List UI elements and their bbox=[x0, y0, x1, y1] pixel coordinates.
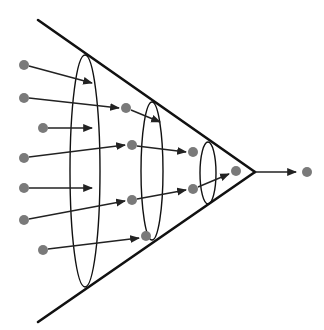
stage-1-dot-3 bbox=[127, 195, 137, 205]
stage-1-dot-4 bbox=[141, 231, 151, 241]
arrow-8 bbox=[131, 110, 160, 122]
funnel-diagram bbox=[0, 0, 324, 330]
arrow-9 bbox=[137, 146, 186, 152]
stage-1-dot-2 bbox=[127, 140, 137, 150]
input-dot-6 bbox=[19, 215, 29, 225]
output-dot bbox=[302, 167, 312, 177]
input-dot-7 bbox=[38, 245, 48, 255]
input-dot-1 bbox=[19, 60, 29, 70]
stage-ellipses bbox=[70, 55, 216, 287]
stage-2-dot-2 bbox=[188, 184, 198, 194]
arrow-7 bbox=[48, 238, 139, 249]
arrow-6 bbox=[29, 201, 125, 219]
input-dot-5 bbox=[19, 183, 29, 193]
input-dot-2 bbox=[19, 93, 29, 103]
stage-1-dot-1 bbox=[121, 103, 131, 113]
stage-2-dot-1 bbox=[188, 147, 198, 157]
item-dots bbox=[19, 60, 312, 255]
arrow-4 bbox=[29, 145, 125, 157]
stage-3-dot bbox=[231, 166, 241, 176]
stage-3-ellipse bbox=[200, 142, 216, 204]
stage-2-ellipse bbox=[141, 102, 163, 240]
stage-1-ellipse bbox=[70, 55, 100, 287]
arrow-11 bbox=[198, 174, 229, 187]
input-dot-3 bbox=[38, 123, 48, 133]
arrow-1 bbox=[29, 66, 92, 83]
arrow-2 bbox=[29, 98, 119, 108]
input-dot-4 bbox=[19, 153, 29, 163]
